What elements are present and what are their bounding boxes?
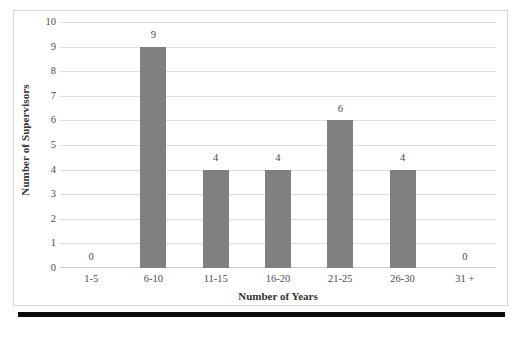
bar-slot: 9 xyxy=(122,22,184,268)
y-axis-tick-label: 0 xyxy=(34,263,56,274)
x-axis-tick-labels: 1-56-1011-1516-2021-2526-3031 + xyxy=(60,274,496,290)
x-axis-tick-label: 6-10 xyxy=(144,274,163,285)
bar[interactable] xyxy=(390,170,416,268)
x-axis-tick-label: 26-30 xyxy=(390,274,415,285)
y-axis-tick-label: 4 xyxy=(34,164,56,175)
bar-value-label: 4 xyxy=(275,153,280,164)
bar-slot: 4 xyxy=(247,22,309,268)
y-axis-tick-label: 6 xyxy=(34,115,56,126)
y-axis-tick-label: 10 xyxy=(34,17,56,28)
horizontal-rule xyxy=(18,312,505,317)
x-axis-tick-label: 11-15 xyxy=(204,274,228,285)
y-axis-tick-label: 1 xyxy=(34,238,56,249)
y-axis-tick-labels: 109876543210 xyxy=(32,0,56,337)
plot-area: 0944640 xyxy=(60,22,496,268)
y-axis-tick-label: 2 xyxy=(34,214,56,225)
bar-slot: 4 xyxy=(185,22,247,268)
bar-slot: 4 xyxy=(371,22,433,268)
bar-value-label: 0 xyxy=(89,252,94,263)
x-axis-tick-label: 31 + xyxy=(455,274,474,285)
y-axis-tick-label: 8 xyxy=(34,66,56,77)
y-axis-tick-label: 7 xyxy=(34,91,56,102)
bar-value-label: 6 xyxy=(338,104,343,115)
x-axis-title: Number of Years xyxy=(60,290,496,302)
bar-value-label: 4 xyxy=(213,153,218,164)
x-axis-tick-label: 16-20 xyxy=(266,274,291,285)
y-axis-title-label: Number of Supervisors xyxy=(19,84,31,195)
bar-slot: 0 xyxy=(60,22,122,268)
bar-value-label: 4 xyxy=(400,153,405,164)
bar-series: 0944640 xyxy=(60,22,496,268)
y-axis-tick-label: 5 xyxy=(34,140,56,151)
bar-value-label: 9 xyxy=(151,30,156,41)
bar[interactable] xyxy=(327,120,353,268)
bar-slot: 6 xyxy=(309,22,371,268)
bar[interactable] xyxy=(203,170,229,268)
bar[interactable] xyxy=(265,170,291,268)
x-axis-tick-label: 21-25 xyxy=(328,274,353,285)
y-axis-tick-label: 9 xyxy=(34,41,56,52)
bar-slot: 0 xyxy=(434,22,496,268)
bar-value-label: 0 xyxy=(462,252,467,263)
x-axis-tick-label: 1-5 xyxy=(84,274,98,285)
y-axis-tick-label: 3 xyxy=(34,189,56,200)
bar[interactable] xyxy=(140,47,166,268)
